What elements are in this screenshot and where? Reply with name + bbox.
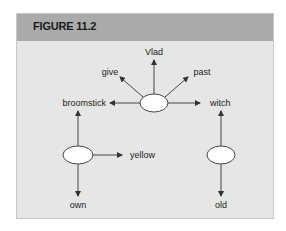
edge-center-give bbox=[120, 77, 143, 97]
edge-center-past bbox=[165, 77, 188, 97]
label-witch: witch bbox=[209, 98, 231, 108]
label-yellow: yellow bbox=[130, 150, 156, 160]
node-left bbox=[63, 146, 93, 164]
label-past: past bbox=[193, 67, 211, 77]
node-center bbox=[140, 94, 168, 112]
label-vlad: Vlad bbox=[145, 47, 163, 57]
label-broomstick: broomstick bbox=[62, 98, 106, 108]
semantic-network-diagram: Vlad give past broomstick witch yellow o… bbox=[0, 0, 286, 231]
node-right bbox=[207, 146, 235, 164]
label-give: give bbox=[102, 67, 119, 77]
label-old: old bbox=[215, 200, 227, 210]
label-own: own bbox=[70, 200, 87, 210]
